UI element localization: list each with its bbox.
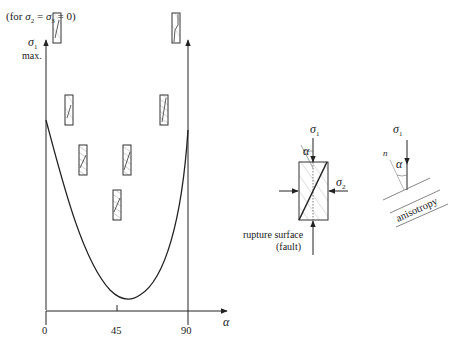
sample-rect-1 — [53, 13, 61, 43]
y-axis-label-max: max. — [22, 50, 42, 61]
alpha-label: α — [303, 144, 310, 158]
aniso-sigma1-label: σ1 — [393, 122, 403, 138]
rupture-label-line2: (fault) — [276, 241, 301, 253]
sample-rect-2 — [65, 95, 73, 125]
sigma2-label: σ2 — [336, 175, 346, 191]
normal-label: n — [383, 148, 388, 158]
rupture-label-line1: rupture surface — [243, 229, 304, 240]
anisotropy-diagram: σ1 n α anisotropy — [383, 122, 448, 227]
x-axis-label: α — [223, 315, 230, 329]
tick-label-0: 0 — [42, 325, 47, 336]
y-axis-label: σ1 — [28, 35, 38, 51]
aniso-alpha-arc — [397, 175, 407, 176]
condition-label: (for σ2 = σ3 = 0) — [6, 10, 76, 25]
tick-label-90: 90 — [181, 325, 192, 336]
sample-rect-3 — [79, 145, 87, 175]
sample-diagram: σ1 σ2 α rupture surface (fault) — [243, 122, 348, 255]
sample-rect-7 — [172, 13, 180, 43]
sigma1-label: σ1 — [310, 122, 320, 138]
anisotropy-label: anisotropy — [394, 195, 440, 224]
sample-rect-6 — [160, 95, 168, 125]
tick-label-45: 45 — [111, 325, 122, 336]
aniso-alpha-label: α — [396, 157, 403, 171]
anisotropy-strength-diagram: (for σ2 = σ3 = 0) σ1 max. 0 45 90 α — [0, 0, 464, 349]
sample-rect-5 — [113, 190, 121, 220]
sample-rect-4 — [123, 145, 131, 175]
